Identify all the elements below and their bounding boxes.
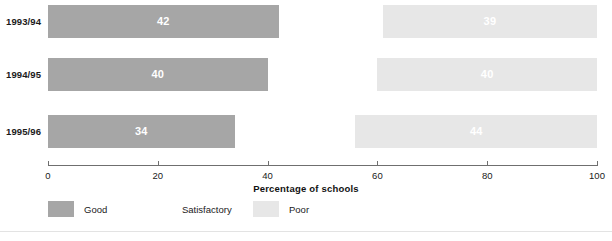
bar-row-1995-96: 34 44 (48, 115, 597, 148)
bar-value-label: 40 (151, 69, 164, 80)
bar-value-label: 40 (481, 69, 494, 80)
x-axis-tick-label: 0 (45, 170, 50, 181)
bar-segment-good[interactable]: 34 (48, 115, 235, 148)
bar-value-label: 42 (157, 16, 170, 27)
stacked-bar-chart: 1993/94 1994/95 1995/96 42 39 40 40 (0, 0, 612, 241)
legend-swatch-good (48, 201, 74, 217)
legend-label: Satisfactory (182, 204, 232, 215)
x-axis-tick-label: 80 (482, 170, 493, 181)
bar-segment-poor[interactable]: 40 (377, 58, 597, 91)
bar-row-1994-95: 40 40 (48, 58, 597, 91)
bar-segment-good[interactable]: 42 (48, 5, 279, 38)
legend-item-satisfactory[interactable]: Satisfactory (146, 200, 232, 218)
x-axis-tick (597, 161, 598, 166)
category-label-1995-96: 1995/96 (6, 126, 46, 137)
category-label-1993-94: 1993/94 (6, 16, 46, 27)
bar-value-label: 34 (135, 126, 148, 137)
bar-segment-poor[interactable]: 39 (383, 5, 597, 38)
bar-row-1993-94: 42 39 (48, 5, 597, 38)
x-axis-tick (268, 161, 269, 166)
bottom-divider (0, 231, 612, 232)
x-axis-line (48, 165, 597, 166)
x-axis-tick-label: 20 (153, 170, 164, 181)
bar-value-label: 44 (470, 126, 483, 137)
x-axis-tick (487, 161, 488, 166)
legend-swatch-satisfactory (146, 201, 172, 217)
x-axis-title: Percentage of schools (0, 183, 612, 194)
category-label-1994-95: 1994/95 (6, 69, 46, 80)
bar-value-label: 39 (484, 16, 497, 27)
legend-item-good[interactable]: Good (48, 200, 107, 218)
bar-segment-good[interactable]: 40 (48, 58, 268, 91)
x-axis-tick-label: 100 (589, 170, 605, 181)
x-axis-tick-label: 40 (262, 170, 273, 181)
legend-label: Poor (289, 204, 309, 215)
legend-swatch-poor (253, 201, 279, 217)
legend-label: Good (84, 204, 107, 215)
x-axis-tick-label: 60 (372, 170, 383, 181)
x-axis-tick (377, 161, 378, 166)
legend-item-poor[interactable]: Poor (253, 200, 309, 218)
plot-area: 42 39 40 40 34 (48, 0, 597, 160)
x-axis-tick (48, 161, 49, 166)
bar-segment-satisfactory[interactable] (268, 58, 378, 91)
x-axis-tick (158, 161, 159, 166)
bar-segment-satisfactory[interactable] (279, 5, 383, 38)
bar-segment-poor[interactable]: 44 (355, 115, 597, 148)
bar-segment-satisfactory[interactable] (235, 115, 356, 148)
